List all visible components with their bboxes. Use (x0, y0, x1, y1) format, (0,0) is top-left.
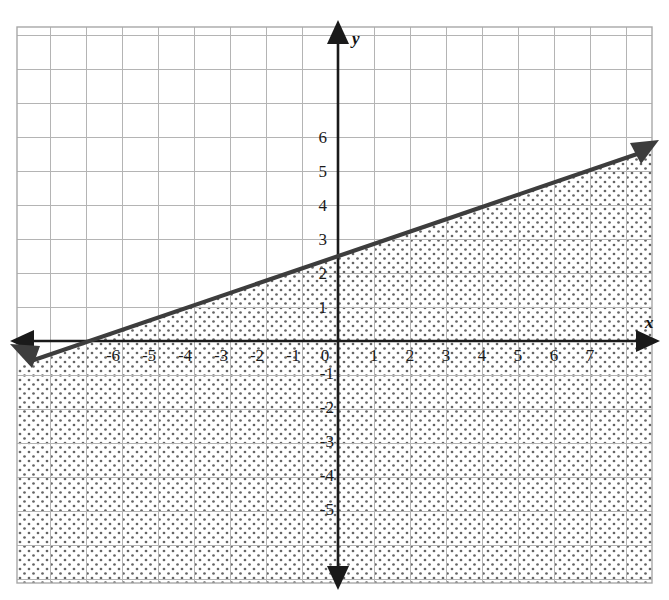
x-tick-label: 2 (406, 346, 415, 365)
x-tick-label: -3 (214, 346, 228, 365)
x-tick-label: -2 (250, 346, 264, 365)
y-tick-label: -2 (320, 398, 334, 417)
coordinate-plane: y x -6 -5 -4 -3 -2 -1 0 1 2 3 4 5 6 7 6 … (0, 0, 669, 600)
y-tick-label: 5 (319, 162, 328, 181)
y-axis-label: y (350, 29, 360, 48)
y-tick-label: -3 (320, 432, 334, 451)
y-tick-label: 4 (319, 196, 328, 215)
origin-label: 0 (321, 346, 330, 365)
y-tick-label: 3 (319, 230, 328, 249)
x-tick-label: 6 (550, 346, 559, 365)
graph-figure: y x -6 -5 -4 -3 -2 -1 0 1 2 3 4 5 6 7 6 … (0, 0, 669, 600)
x-tick-label: 5 (514, 346, 523, 365)
x-axis-label: x (644, 313, 654, 332)
y-tick-label: 2 (319, 264, 328, 283)
y-tick-label: -1 (320, 364, 334, 383)
x-tick-label: -6 (106, 346, 120, 365)
y-tick-label: -4 (320, 466, 335, 485)
x-tick-label: -1 (286, 346, 300, 365)
y-tick-label: -5 (320, 500, 334, 519)
y-tick-label: 1 (319, 298, 328, 317)
x-tick-label: 1 (370, 346, 379, 365)
y-tick-label: 6 (319, 128, 328, 147)
x-tick-label: 4 (478, 346, 487, 365)
x-tick-label: 7 (586, 346, 595, 365)
x-tick-label: -5 (142, 346, 156, 365)
x-tick-label: 3 (442, 346, 451, 365)
x-tick-label: -4 (178, 346, 193, 365)
